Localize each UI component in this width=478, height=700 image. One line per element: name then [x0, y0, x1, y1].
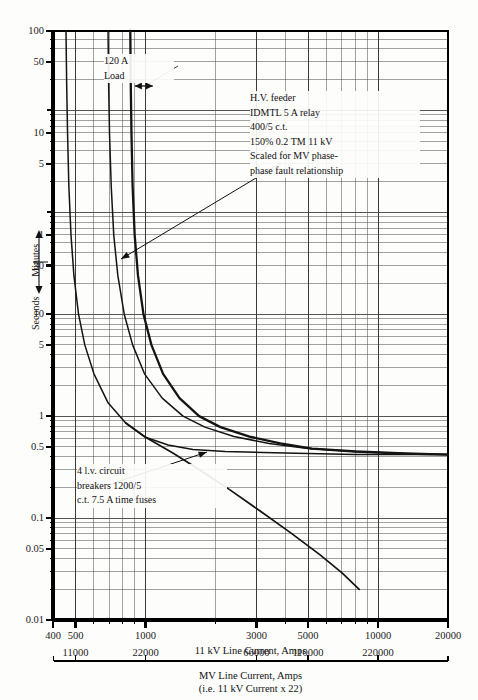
y-axis-label-minutes: 10 — [2, 126, 44, 139]
mv-axis-label: 220000 — [348, 646, 408, 659]
y-axis-label-seconds: 0.01 — [2, 613, 44, 626]
y-axis-label-seconds: 5 — [2, 338, 44, 351]
y-axis-label-seconds: 0.05 — [2, 542, 44, 555]
y-axis-label-seconds: 0.1 — [2, 511, 44, 524]
x-axis-label: 3000 — [230, 629, 282, 642]
y-axis-label-minutes: 1 — [2, 228, 44, 241]
mv-axis-label: 11000 — [46, 646, 106, 659]
mv-axis-title-line1: MV Line Current, Amps — [53, 669, 448, 682]
y-axis-label-minutes: 100 — [2, 24, 44, 37]
x-axis-label: 20000 — [422, 629, 474, 642]
y-axis-title: Seconds Minutes — [30, 244, 43, 330]
y-axis-label-seconds: 0.5 — [2, 440, 44, 453]
load-band-arrow-left — [135, 83, 142, 90]
x-axis-label: 10000 — [352, 629, 404, 642]
x-axis-label: 5000 — [282, 629, 334, 642]
x-axis-label: 500 — [50, 629, 102, 642]
y-axis-label-minutes: 50 — [2, 55, 44, 68]
annotation-lv-breakers: 4 l.v. circuit breakers 1200/5 c.t. 7.5 … — [77, 464, 227, 508]
load-band-arrow-right — [146, 83, 153, 90]
mv-axis-label: 22000 — [116, 646, 176, 659]
annotation-hv-feeder: H.V. feeder IDMTL 5 A relay 400/5 c.t. 1… — [250, 91, 420, 178]
y-axis-label-minutes: 5 — [2, 157, 44, 170]
y-axis-label-seconds: 1 — [2, 409, 44, 422]
x-axis-label: 1000 — [120, 629, 172, 642]
mv-axis-title-line2: (i.e. 11 kV Current x 22) — [53, 682, 448, 695]
annotation-load-label: 120 A Load — [104, 54, 174, 83]
chart-figure: 1005010513010510.50.10.050.0140050010003… — [0, 0, 478, 700]
mv-axis-label: 110000 — [278, 646, 338, 659]
